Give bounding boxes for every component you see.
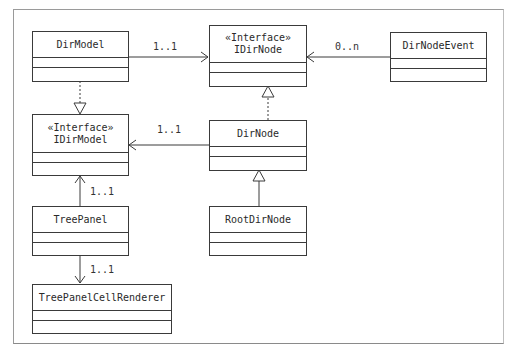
operations-compartment <box>33 163 128 175</box>
class-rootdirnode[interactable]: RootDirNode <box>209 206 307 256</box>
attributes-compartment <box>210 147 306 157</box>
attributes-compartment <box>391 59 486 69</box>
operations-compartment <box>33 243 128 255</box>
class-stereotype: «Interface» <box>47 122 113 134</box>
class-stereotype: «Interface» <box>225 32 291 44</box>
attributes-compartment <box>33 58 128 68</box>
multiplicity-treepanel-idirmodel: 1..1 <box>90 186 114 198</box>
class-name: TreePanelCellRenderer <box>39 292 165 304</box>
class-name-compartment: DirModel <box>33 32 128 58</box>
class-treepanelcellrenderer[interactable]: TreePanelCellRenderer <box>32 284 172 334</box>
class-idirmodel[interactable]: «Interface» IDirModel <box>32 114 129 176</box>
class-name-compartment: «Interface» IDirNode <box>210 26 306 63</box>
attributes-compartment <box>210 63 306 73</box>
class-treepanel[interactable]: TreePanel <box>32 206 129 256</box>
class-name: RootDirNode <box>225 214 291 226</box>
class-name: DirModel <box>56 39 104 51</box>
class-name-compartment: RootDirNode <box>210 207 306 233</box>
attributes-compartment <box>210 233 306 243</box>
class-name: IDirNode <box>234 44 282 56</box>
class-name: DirNodeEvent <box>402 40 474 52</box>
class-name-compartment: DirNode <box>210 121 306 147</box>
class-name-compartment: TreePanelCellRenderer <box>33 285 171 311</box>
multiplicity-dirnode-idirmodel: 1..1 <box>157 124 181 136</box>
operations-compartment <box>210 73 306 86</box>
multiplicity-event-idirnode: 0..n <box>335 41 359 53</box>
class-name-compartment: TreePanel <box>33 207 128 233</box>
multiplicity-dirmodel-idirnode: 1..1 <box>153 41 177 53</box>
class-dirmodel[interactable]: DirModel <box>32 31 129 82</box>
class-name-compartment: «Interface» IDirModel <box>33 115 128 153</box>
operations-compartment <box>210 243 306 255</box>
multiplicity-treepanel-renderer: 1..1 <box>90 264 114 276</box>
attributes-compartment <box>33 153 128 163</box>
class-name: TreePanel <box>53 214 107 226</box>
operations-compartment <box>33 68 128 81</box>
class-name: DirNode <box>237 128 279 140</box>
operations-compartment <box>210 157 306 170</box>
attributes-compartment <box>33 311 171 321</box>
class-dirnodeevent[interactable]: DirNodeEvent <box>390 32 487 82</box>
operations-compartment <box>391 69 486 81</box>
class-name: IDirModel <box>53 134 107 146</box>
class-idirnode[interactable]: «Interface» IDirNode <box>209 25 307 87</box>
class-dirnode[interactable]: DirNode <box>209 120 307 171</box>
class-name-compartment: DirNodeEvent <box>391 33 486 59</box>
operations-compartment <box>33 321 171 333</box>
attributes-compartment <box>33 233 128 243</box>
